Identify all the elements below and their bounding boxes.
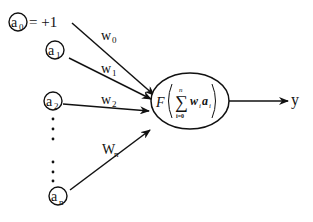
- sum-symbol: ∑: [175, 92, 188, 112]
- input-a1-base: a: [48, 43, 55, 58]
- output-label-y: y: [291, 91, 299, 109]
- input-node-a2: a 2: [44, 92, 62, 111]
- term-w-sub: i: [199, 102, 201, 110]
- input-a0-sub: 0: [19, 22, 24, 32]
- input-an-base: a: [51, 189, 58, 204]
- input-a0-bias-value: = +1: [29, 14, 57, 30]
- input-node-a0: a 0 = +1: [9, 13, 57, 32]
- weight-arrow-w0: [72, 23, 154, 95]
- svg-text:n: n: [114, 149, 119, 159]
- input-a1-sub: 1: [56, 50, 61, 60]
- svg-text:w: w: [101, 61, 112, 76]
- sum-lower-bound: i=0: [176, 113, 184, 119]
- weight-label-w0: w 0: [101, 28, 117, 45]
- svg-text:w: w: [101, 92, 112, 107]
- svg-text:2: 2: [112, 99, 117, 109]
- input-an-sub: n: [59, 197, 64, 207]
- input-a0-base: a: [11, 15, 18, 30]
- input-a2-base: a: [46, 94, 53, 109]
- activation-function-label: F: [155, 95, 165, 110]
- neuron-node: F ∑ n i=0 w i a i: [151, 73, 229, 129]
- input-a2-sub: 2: [54, 101, 59, 111]
- ellipsis-dots: [52, 118, 55, 183]
- svg-text:0: 0: [112, 35, 117, 45]
- svg-text:w: w: [101, 28, 112, 43]
- term-a: a: [202, 94, 208, 108]
- input-node-an: a n: [49, 187, 67, 207]
- svg-text:1: 1: [112, 68, 117, 78]
- weight-label-wn: W n: [102, 142, 119, 159]
- weight-label-w1: w 1: [101, 61, 117, 78]
- weight-label-w2: w 2: [101, 92, 117, 109]
- weight-arrow-wn: [70, 130, 150, 190]
- sum-upper-bound: n: [179, 86, 183, 94]
- term-w: w: [190, 94, 199, 108]
- input-node-a1: a 1: [46, 41, 64, 60]
- term-a-sub: i: [209, 102, 211, 110]
- perceptron-diagram: a 0 = +1 a 1 a 2 a n w 0 w 1: [0, 0, 313, 222]
